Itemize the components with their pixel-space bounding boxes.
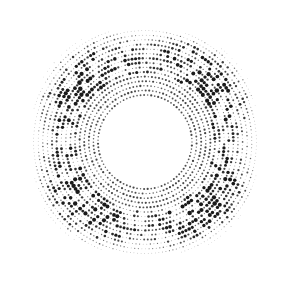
dot [205, 193, 206, 194]
dot [142, 48, 144, 50]
dot [91, 58, 94, 61]
dot [118, 87, 119, 88]
dot [106, 36, 108, 38]
dot [189, 108, 191, 110]
dot [190, 134, 192, 136]
dot [191, 138, 192, 139]
dot [236, 158, 237, 159]
dot [61, 216, 63, 218]
dot [110, 186, 112, 188]
dot [69, 210, 71, 212]
dot [45, 117, 47, 119]
dot [192, 96, 194, 98]
dot [99, 86, 103, 90]
dot [48, 214, 49, 215]
dot [121, 66, 122, 67]
dot [191, 226, 194, 229]
dot [98, 227, 100, 229]
dot [188, 124, 190, 126]
dot [45, 201, 46, 202]
dot [254, 121, 255, 122]
dot [93, 164, 95, 166]
dot [159, 252, 160, 253]
dot [197, 162, 198, 163]
dot [53, 123, 54, 124]
dot [104, 230, 108, 234]
dot [172, 87, 174, 89]
dot [162, 78, 164, 80]
dot [224, 78, 227, 81]
dot [246, 175, 247, 176]
dot [59, 116, 61, 118]
dot [112, 79, 113, 80]
dot [157, 35, 158, 36]
dot [70, 179, 71, 180]
dot [102, 244, 103, 245]
dot [142, 62, 143, 63]
dot [210, 75, 213, 78]
dot [161, 97, 163, 99]
dot [206, 78, 208, 80]
dot [149, 193, 150, 194]
dot [107, 169, 109, 171]
dot [212, 190, 215, 193]
dot [209, 169, 210, 170]
dot [102, 119, 104, 121]
dot [149, 62, 150, 63]
dot [213, 130, 215, 132]
dot [240, 120, 241, 121]
dot [65, 233, 66, 234]
dot [159, 31, 160, 32]
dot [97, 143, 99, 145]
dot [196, 142, 198, 144]
dot [43, 77, 44, 78]
dot [114, 48, 117, 51]
dot [144, 44, 145, 45]
dot [217, 129, 220, 132]
dot [81, 181, 83, 183]
dot [54, 62, 55, 63]
dot [61, 151, 63, 153]
dot [197, 112, 199, 114]
dot [56, 172, 58, 174]
dot [194, 57, 196, 59]
dot [241, 130, 243, 132]
dot [70, 93, 72, 95]
dot [214, 141, 216, 143]
dot [102, 80, 103, 81]
dot [136, 44, 138, 46]
dot [66, 88, 70, 92]
dot [45, 164, 46, 165]
dot [130, 40, 131, 41]
dot [241, 98, 244, 101]
dot [111, 233, 114, 236]
dot [61, 55, 62, 56]
dot [69, 116, 70, 117]
dot [79, 135, 81, 137]
dot [170, 201, 172, 203]
dot [237, 141, 238, 142]
dot [43, 173, 44, 174]
dot [68, 80, 69, 81]
dot [65, 64, 66, 65]
dot [82, 90, 85, 93]
dot [96, 178, 98, 180]
dot [107, 99, 109, 101]
dot [159, 68, 162, 71]
dot [183, 37, 184, 38]
dot [163, 49, 166, 52]
dot [105, 116, 106, 117]
dot [230, 175, 232, 177]
dot [207, 195, 209, 197]
dot [76, 197, 77, 198]
dot [107, 184, 109, 186]
dot [222, 68, 223, 69]
dot [76, 171, 78, 173]
dot [153, 35, 154, 36]
dot [134, 220, 136, 222]
dot [231, 226, 232, 227]
dot [204, 213, 205, 214]
dot [136, 95, 138, 97]
dot [207, 124, 209, 126]
dot [150, 94, 152, 96]
